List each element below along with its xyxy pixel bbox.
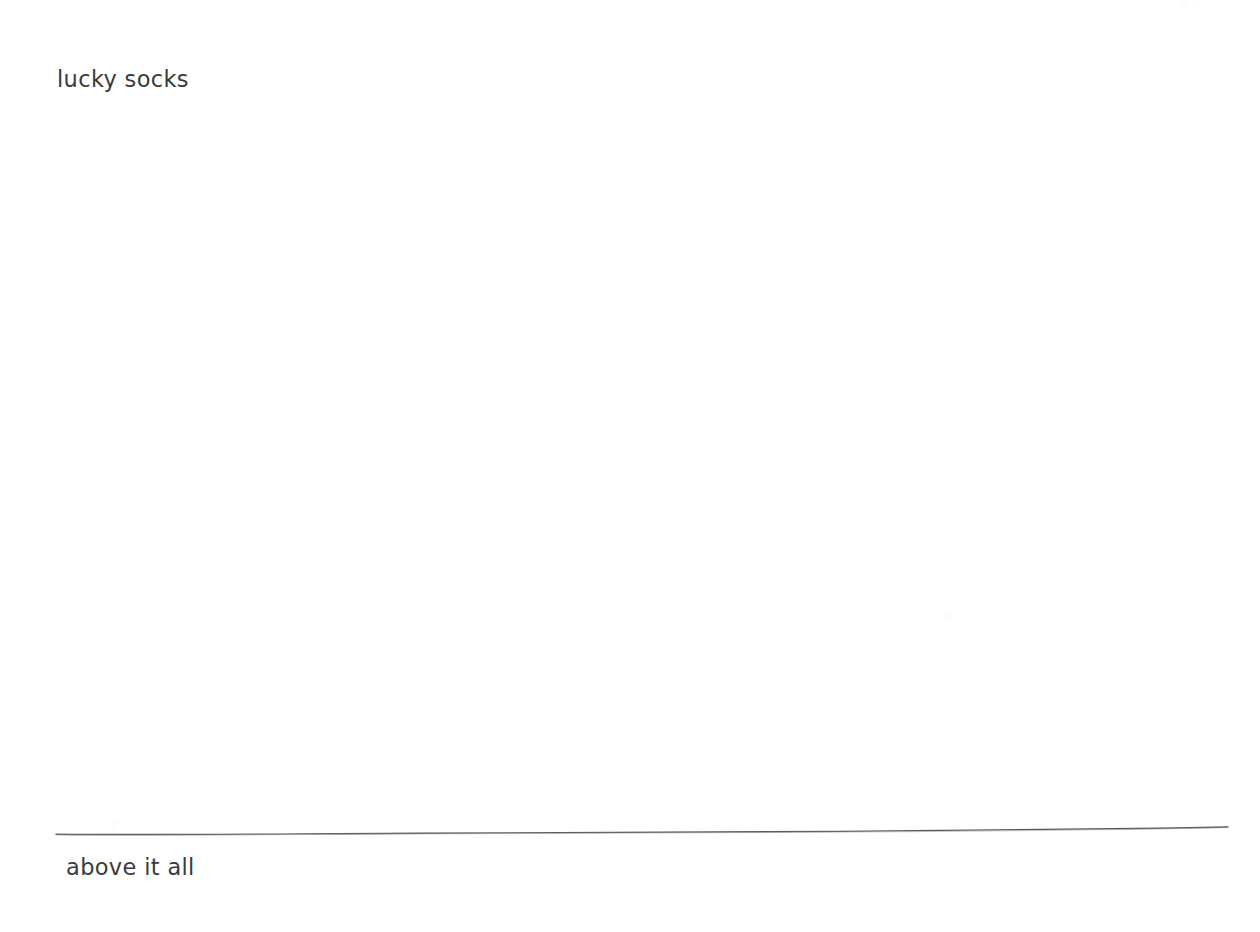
scan-speck-icon: [1192, 0, 1197, 5]
scan-speck-icon: [942, 610, 953, 620]
divider-stroke-shadow: [56, 828, 1228, 836]
note-page: lucky socks above it all: [0, 0, 1260, 932]
divider-stroke: [56, 827, 1228, 835]
scan-speck-icon: [112, 822, 116, 831]
bottom-phrase: above it all: [66, 853, 195, 881]
top-phrase: lucky socks: [57, 65, 189, 93]
scan-speck-icon: [1178, 0, 1189, 6]
